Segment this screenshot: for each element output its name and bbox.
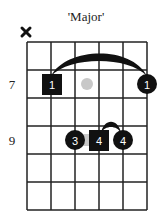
fret-label-7: 7 <box>9 77 16 92</box>
finger-marker-circle: 3 <box>65 130 85 150</box>
fretboard-grid <box>27 42 147 210</box>
finger-marker-square: 1 <box>42 74 62 95</box>
chord-title: 'Major' <box>68 9 104 24</box>
svg-text:4: 4 <box>120 135 126 147</box>
finger-marker-square: 4 <box>89 130 109 151</box>
svg-text:4: 4 <box>96 135 102 147</box>
fret-label-9: 9 <box>9 133 16 148</box>
ghost-dot <box>81 78 93 90</box>
finger-marker-circle: 1 <box>137 74 157 94</box>
svg-text:1: 1 <box>144 79 150 91</box>
svg-text:1: 1 <box>49 79 55 91</box>
chord-diagram: 'Major' 7 9 1 1 3 <box>0 0 166 221</box>
svg-text:3: 3 <box>72 135 78 147</box>
muted-string-x-icon <box>22 28 30 36</box>
finger-marker-circle: 4 <box>113 130 133 150</box>
